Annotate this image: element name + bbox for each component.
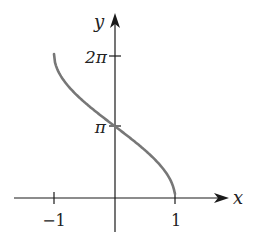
x-tick-label-neg1: −1 (42, 211, 66, 230)
x-tick-label-1: 1 (171, 211, 181, 230)
y-tick-label-2pi: 2π (84, 47, 108, 67)
x-axis-label: x (233, 187, 243, 208)
y-axis-label: y (93, 11, 105, 32)
graph-figure: −1 1 π 2π x y (0, 0, 264, 239)
y-tick-label-pi: π (94, 117, 107, 137)
